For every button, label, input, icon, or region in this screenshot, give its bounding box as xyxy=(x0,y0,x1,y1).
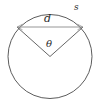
arc-label-s: s xyxy=(74,3,79,12)
angle-label-theta: θ xyxy=(46,39,52,49)
chord-label-d: d xyxy=(44,13,51,24)
radius-line-right xyxy=(50,27,83,57)
geometry-figure: d s θ xyxy=(0,0,102,105)
